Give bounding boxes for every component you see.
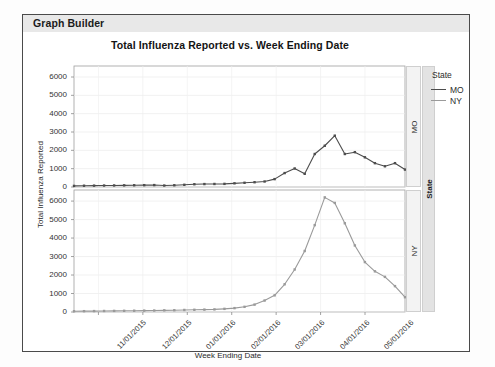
legend-item-mo[interactable]: MO <box>431 84 495 95</box>
facet-strip-mo: MO <box>406 66 421 187</box>
y-tick-label: 1000 <box>33 164 67 173</box>
chart-board: Total Influenza Reported vs. Week Ending… <box>23 32 469 351</box>
y-tick-label: 6000 <box>33 72 67 81</box>
screenshot-root: Graph Builder Total Influenza Reported v… <box>0 0 495 367</box>
graph-builder-window: Graph Builder Total Influenza Reported v… <box>22 14 470 352</box>
y-tick-label: 5000 <box>33 215 67 224</box>
legend: State MONY <box>431 70 495 106</box>
window-titlebar: Graph Builder <box>23 15 469 33</box>
y-tick-label: 2000 <box>33 145 67 154</box>
y-tick-label: 0 <box>33 307 67 316</box>
y-tick-label: 4000 <box>33 233 67 242</box>
y-tick-label: 5000 <box>33 90 67 99</box>
y-tick-label: 0 <box>33 182 67 191</box>
y-tick-label: 3000 <box>33 127 67 136</box>
legend-swatch-icon <box>431 89 446 90</box>
facet-strip-ny-label: NY <box>409 245 418 256</box>
window-title: Graph Builder <box>33 17 104 29</box>
legend-title: State <box>431 70 495 80</box>
facet-group-label: State <box>424 179 433 199</box>
line-chart-plot <box>23 32 471 353</box>
legend-item-label: NY <box>450 96 462 106</box>
y-tick-label: 2000 <box>33 270 67 279</box>
legend-item-ny[interactable]: NY <box>431 95 495 106</box>
y-tick-label: 1000 <box>33 289 67 298</box>
y-tick-label: 3000 <box>33 252 67 261</box>
facet-strip-mo-label: MO <box>409 120 418 133</box>
legend-items: MONY <box>431 84 495 106</box>
y-tick-label: 6000 <box>33 196 67 205</box>
legend-item-label: MO <box>450 85 464 95</box>
y-tick-label: 4000 <box>33 109 67 118</box>
facet-strip-ny: NY <box>406 190 421 312</box>
legend-swatch-icon <box>431 100 446 101</box>
